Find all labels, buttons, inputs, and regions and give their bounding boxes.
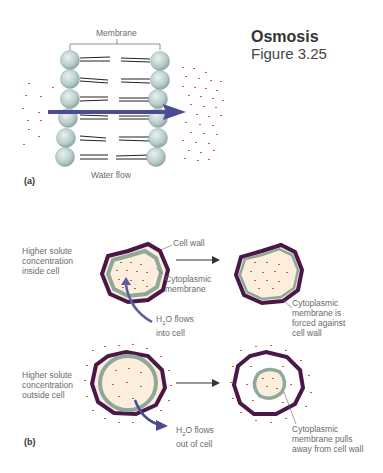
membrane-bracket bbox=[70, 39, 160, 50]
membrane-forced-label: Cytoplasmic membrane is forced against c… bbox=[292, 298, 345, 338]
solutes-high bbox=[182, 67, 224, 161]
water-flows-in-label: H2O flows into cell bbox=[156, 314, 194, 338]
cell-plasmolysis-after bbox=[230, 345, 312, 423]
cell-turgid-before bbox=[102, 244, 168, 302]
panel-b-label: (b) bbox=[24, 437, 36, 447]
cell-wall-label: Cell wall bbox=[173, 238, 205, 248]
panel-a-label: (a) bbox=[24, 176, 35, 186]
cytoplasmic-membrane-label: Cytoplasmic membrane bbox=[165, 274, 211, 294]
phospholipid-bilayer bbox=[56, 51, 170, 167]
membrane-pulls-away-label: Cytoplasmic membrane pulls away from cel… bbox=[292, 424, 363, 454]
water-flow-label: Water flow bbox=[91, 170, 131, 180]
membrane-label: Membrane bbox=[96, 28, 137, 38]
osmosis-diagram bbox=[0, 0, 383, 473]
higher-solute-inside-label: Higher solute concentration inside cell bbox=[22, 246, 73, 276]
water-flows-out-label: H2O flows out of cell bbox=[176, 425, 214, 449]
cell-plasmolysis-before bbox=[84, 344, 172, 423]
higher-solute-outside-label: Higher solute concentration outside cell bbox=[22, 370, 73, 400]
cell-turgid-after bbox=[236, 245, 302, 303]
